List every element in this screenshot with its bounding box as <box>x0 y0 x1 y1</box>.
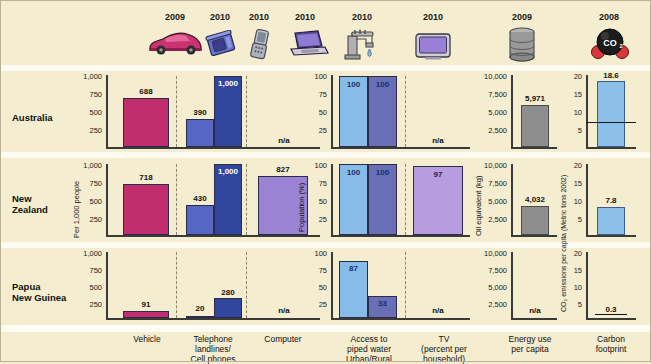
country-label-australia: Australia <box>12 112 53 123</box>
tick-co2-10-nz: 10 <box>565 197 582 206</box>
tick-co2-5-au: 5 <box>565 126 582 135</box>
laptop-icon <box>283 29 331 63</box>
tick-co2-20-nz: 20 <box>565 161 582 170</box>
tick-oil-7500-au: 7,500 <box>465 90 507 99</box>
tv-icon <box>410 32 456 64</box>
axis-y-energy-au <box>511 75 513 148</box>
tick-oil-2500-nz: 2,500 <box>465 215 507 224</box>
tick-co2-15-nz: 15 <box>565 179 582 188</box>
caption-water-l2: piped water <box>330 344 408 354</box>
tick-pop-50-au: 50 <box>303 108 327 117</box>
tick-co2-5-pg: 5 <box>565 300 582 309</box>
tick-oil-5000-pg: 5,000 <box>465 283 507 292</box>
caption-tv-l2: (percent per <box>408 344 480 354</box>
header-year-carbon: 2008 <box>592 12 626 22</box>
row-separator-2 <box>0 242 651 248</box>
axis-y-carbon-pg <box>586 252 588 319</box>
caption-water-l1: Access to <box>330 334 408 344</box>
svg-text:CO: CO <box>603 38 617 48</box>
bar-value-energy-pg: n/a <box>512 306 558 315</box>
tick-oil-10000-au: 10,000 <box>465 72 507 81</box>
header-year-water: 2010 <box>345 12 379 22</box>
tick-oil-5000-nz: 5,000 <box>465 197 507 206</box>
axis-x-energy-nz <box>511 235 557 237</box>
bar-value-cellphone-au: 1,000 <box>208 79 248 88</box>
tick-pop-100-pg: 100 <box>303 249 327 258</box>
axis-y-carbon-au <box>586 75 588 148</box>
tick-people-250-au: 250 <box>62 126 102 135</box>
caption-telephone-l3: Cell phones <box>180 354 246 364</box>
tick-co2-20-pg: 20 <box>565 249 582 258</box>
bar-value-tv-pg: n/a <box>413 306 463 315</box>
tick-pop-25-pg: 25 <box>303 300 327 309</box>
country-name-australia: Australia <box>12 112 53 123</box>
axis-title-per-1000-people: Per 1,000 people <box>72 181 81 238</box>
tick-people-750-pg: 750 <box>62 266 102 275</box>
header-year-energy: 2009 <box>505 12 539 22</box>
bar-value-water-rural-nz: 100 <box>368 168 397 177</box>
axis-x-transport-pg <box>106 318 320 320</box>
caption-carbon-l2: footprint <box>580 344 642 354</box>
tick-co2-10-pg: 10 <box>565 283 582 292</box>
bar-value-carbon-pg: 0.3 <box>595 305 627 315</box>
header-year-telephone: 2010 <box>203 12 237 22</box>
axis-y-transport-au <box>106 75 108 148</box>
caption-water-l3: Urban/Rural <box>330 354 408 364</box>
tick-co2-5-nz: 5 <box>565 215 582 224</box>
country-name-new-zealand-l2: Zealand <box>12 204 48 215</box>
country-label-papua-new-guinea: Papua New Guinea <box>12 281 66 303</box>
bar-value-computer-au: n/a <box>256 136 312 145</box>
axis-x-water-au <box>331 147 470 149</box>
country-name-new-zealand-l1: New <box>12 193 48 204</box>
bar-vehicle-au <box>123 98 169 147</box>
caption-energy-l2: per capita <box>490 344 570 354</box>
caption-tv-l3: household) <box>408 354 480 364</box>
axis-x-transport-au <box>106 147 320 149</box>
bar-value-computer-nz: 827 <box>258 165 308 174</box>
caption-carbon-l1: Carbon <box>580 334 642 344</box>
divider-transport-pg-1 <box>176 252 177 318</box>
bar-value-tv-nz: 97 <box>413 170 463 179</box>
tick-people-750-nz: 750 <box>62 179 102 188</box>
axis-x-energy-pg <box>511 318 557 320</box>
row-separator-1 <box>0 152 651 158</box>
bar-value-carbon-nz: 7.8 <box>593 196 629 205</box>
tick-pop-100-nz: 100 <box>303 161 327 170</box>
bar-value-water-rural-pg: 33 <box>368 299 397 308</box>
tick-pop-75-nz: 75 <box>303 179 327 188</box>
axis-y-transport-pg <box>106 252 108 319</box>
axis-y-water-nz <box>331 164 333 236</box>
tick-pop-25-nz: 25 <box>303 215 327 224</box>
tick-people-500-pg: 500 <box>62 283 102 292</box>
faucet-icon <box>338 28 388 66</box>
country-label-new-zealand: New Zealand <box>12 193 48 215</box>
tick-people-250-pg: 250 <box>62 300 102 309</box>
bar-value-water-rural-au: 100 <box>368 80 397 89</box>
tick-oil-5000-au: 5,000 <box>465 108 507 117</box>
bar-value-energy-au: 5,971 <box>512 94 558 103</box>
bar-value-cellphone-pg: 280 <box>208 288 248 297</box>
co2-icon: CO 2 <box>586 26 634 66</box>
divider-transport-nz-1 <box>176 164 177 235</box>
caption-tv-l1: TV <box>408 334 480 344</box>
carbon-reference-line-au <box>586 122 636 123</box>
tick-people-500-nz: 500 <box>62 197 102 206</box>
divider-water-tv-au <box>405 76 406 147</box>
caption-vehicle: Vehicle <box>116 334 178 344</box>
bar-value-water-urban-nz: 100 <box>339 168 368 177</box>
bar-value-tv-au: n/a <box>413 136 463 145</box>
axis-title-population: Population (%) <box>297 183 306 232</box>
tick-people-1000-au: 1,000 <box>62 72 102 81</box>
axis-x-carbon-nz <box>586 235 636 237</box>
tick-people-1000-nz: 1,000 <box>62 161 102 170</box>
caption-telephone-l2: landlines/ <box>180 344 246 354</box>
tick-pop-50-pg: 50 <box>303 283 327 292</box>
tick-people-750-au: 750 <box>62 90 102 99</box>
tick-pop-75-au: 75 <box>303 90 327 99</box>
bar-value-carbon-au: 18.6 <box>593 71 629 80</box>
axis-y-water-au <box>331 75 333 148</box>
telephone-icon <box>200 30 242 62</box>
tick-pop-50-nz: 50 <box>303 197 327 206</box>
bar-value-cellphone-nz: 1,000 <box>208 167 248 176</box>
header-year-vehicle: 2009 <box>155 12 195 22</box>
